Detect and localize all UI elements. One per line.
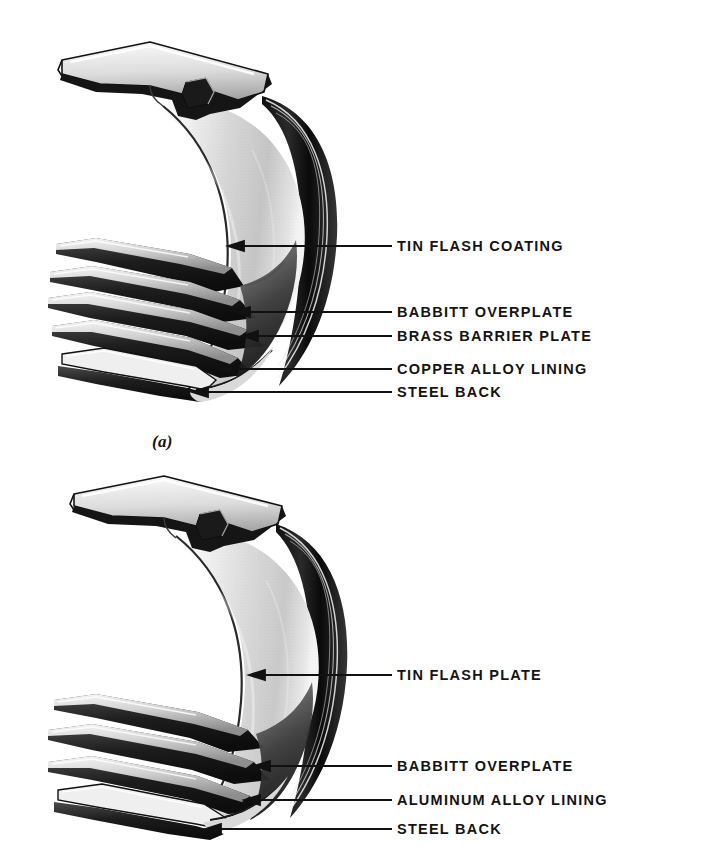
bearing-shell-b [48, 476, 347, 840]
label-babbitt-overplate-a: BABBITT OVERPLATE [397, 305, 573, 320]
label-babbitt-overplate-b: BABBITT OVERPLATE [397, 759, 573, 774]
label-steel-back-b: STEEL BACK [397, 822, 502, 837]
label-copper-alloy-lining: COPPER ALLOY LINING [397, 362, 588, 377]
figure-caption-a: (a) [152, 432, 173, 452]
bearing-shell-a [48, 42, 337, 402]
label-brass-barrier-plate: BRASS BARRIER PLATE [397, 329, 592, 344]
label-aluminum-alloy-lining: ALUMINUM ALLOY LINING [397, 793, 608, 808]
figure-page: TIN FLASH COATING BABBITT OVERPLATE BRAS… [0, 0, 702, 867]
label-tin-flash-coating: TIN FLASH COATING [397, 239, 564, 254]
bearing-illustration [0, 0, 702, 867]
label-tin-flash-plate: TIN FLASH PLATE [397, 668, 542, 683]
label-steel-back-a: STEEL BACK [397, 385, 502, 400]
